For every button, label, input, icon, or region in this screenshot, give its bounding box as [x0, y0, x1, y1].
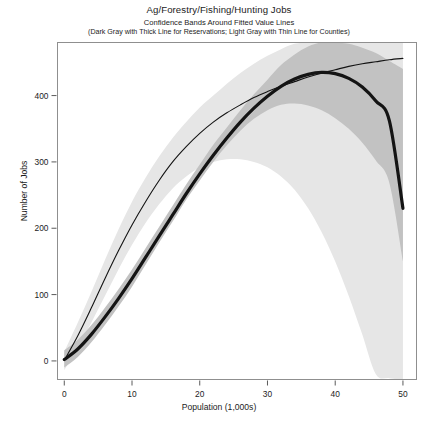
x-tick-label-0: 0: [62, 389, 67, 399]
y-tick-label-300: 300: [35, 157, 49, 167]
x-tick-label-50: 50: [398, 389, 407, 399]
x-tick-label-30: 30: [263, 389, 272, 399]
x-axis-title: Population (1,000s): [0, 402, 438, 412]
x-tick-label-10: 10: [127, 389, 136, 399]
y-tick-label-100: 100: [35, 290, 49, 300]
y-axis-title: Number of Jobs: [19, 131, 29, 251]
chart-figure: Ag/Forestry/Fishing/Hunting Jobs Confide…: [0, 0, 438, 429]
plot-canvas: [0, 0, 438, 429]
y-tick-label-200: 200: [35, 223, 49, 233]
y-tick-label-400: 400: [35, 91, 49, 101]
x-tick-label-20: 20: [195, 389, 204, 399]
y-tick-label-0: 0: [44, 356, 49, 366]
x-tick-label-40: 40: [331, 389, 340, 399]
